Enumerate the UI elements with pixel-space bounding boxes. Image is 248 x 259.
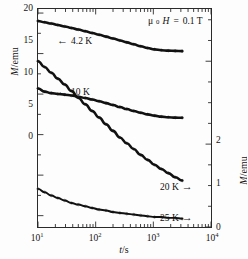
applied-field-annotation: μ0H=0.1 T [148,16,203,26]
x-tick-1e1-base: 10 [31,233,41,243]
x-tick-1e4-exp: 4 [215,231,218,238]
arrow-left-icon: ← [57,35,68,46]
y-right-tick-2: 2 [216,136,232,146]
y-axis-left-label: M/emu [9,32,20,92]
x-tick-1e4: 104 [197,232,227,244]
x-tick-1e3-exp: 3 [156,231,159,238]
field-mu: μ [148,16,153,26]
arrow-left-icon: ← [57,86,68,97]
series-label-10k-text: 10 K [71,87,90,97]
series-label-20k-text: 20 K [160,182,179,192]
field-mu-subscript: 0 [156,18,159,25]
x-tick-1e2-exp: 2 [98,231,101,238]
series-label-4p2k-text: 4.2 K [71,36,92,46]
x-tick-1e4-base: 10 [206,233,216,243]
x-tick-1e3-base: 10 [147,233,157,243]
y-right-tick-1: 1 [216,179,232,189]
y-left-tick-0: 0 [17,132,33,142]
x-tick-1e2-base: 10 [89,233,99,243]
y-left-tick-20: 20 [17,4,33,14]
x-tick-1e3: 103 [138,232,168,244]
y-left-label-numerator: M [9,67,20,75]
x-tick-1e1: 101 [22,232,52,244]
series-label-4p2k: ← 4.2 K [57,35,92,46]
y-axis-right-label: M/emu [238,141,248,201]
series-label-25k: 25 K → [160,212,193,223]
x-tick-1e1-exp: 1 [40,231,43,238]
x-tick-1e2: 102 [80,232,110,244]
x-label-denominator: s [125,244,129,255]
y-left-label-denominator: emu [9,47,20,64]
y-right-label-slash: / [238,174,248,177]
series-label-25k-text: 25 K [160,213,179,223]
y-left-label-slash: / [9,65,20,68]
field-h: H [163,16,170,26]
y-right-label-denominator: emu [238,156,248,173]
series-label-10k: ← 10 K [57,86,90,97]
x-axis-label: t/s [99,244,149,255]
y-left-tick-5: 5 [17,100,33,110]
series-label-20k: 20 K → [160,181,193,192]
arrow-right-icon: → [182,181,193,192]
field-equals: = [173,16,178,26]
magnetization-relaxation-chart: 20 15 10 5 0 2 1 0 101 102 103 104 M/emu… [0,0,247,259]
arrow-right-icon: → [182,212,193,223]
y-right-label-numerator: M [238,176,248,184]
field-value: 0.1 T [183,16,203,26]
